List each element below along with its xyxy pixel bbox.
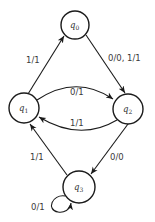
label-q3-self-loop: 0/1 [31,202,45,212]
state-q3: q 3 [63,171,95,203]
state-sub-q1: 1 [25,107,29,114]
label-q2-q1: 1/1 [70,118,84,128]
edge-q1-q0 [28,36,64,94]
label-q2-q3: 0/0 [110,152,124,162]
state-diagram: 1/1 0/0, 1/1 0/1 1/1 0/0 1/1 0/1 q 0 q 1… [0,0,155,222]
edge-q2-q3 [91,124,128,174]
state-sub-q2: 2 [129,108,133,115]
edge-q0-q2 [86,35,125,93]
edge-q3-q1 [30,124,67,175]
label-q3-q1: 1/1 [30,152,44,162]
label-q0-q2: 0/0, 1/1 [108,53,141,63]
label-q1-q2: 0/1 [70,87,84,97]
state-sub-q0: 0 [76,24,80,31]
state-q1: q 1 [9,93,39,123]
state-q2: q 2 [113,94,143,124]
label-q1-q0: 1/1 [26,55,40,65]
state-sub-q3: 3 [80,186,84,193]
state-q0: q 0 [61,11,89,39]
